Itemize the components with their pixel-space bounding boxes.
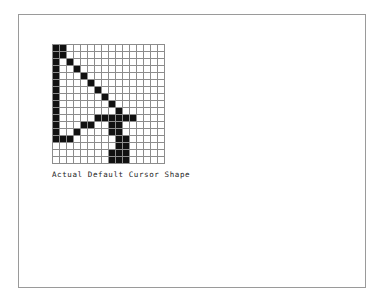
cursor-pixel-off (137, 59, 144, 66)
cursor-pixel-on (53, 52, 60, 59)
cursor-pixel-off (109, 108, 116, 115)
cursor-pixel-off (53, 150, 60, 157)
cursor-pixel-off (151, 143, 158, 150)
cursor-pixel-off (74, 143, 81, 150)
cursor-pixel-off (81, 45, 88, 52)
cursor-pixel-off (158, 73, 165, 80)
cursor-pixel-off (67, 143, 74, 150)
cursor-pixel-off (95, 94, 102, 101)
cursor-pixel-off (116, 94, 123, 101)
cursor-pixel-on (81, 73, 88, 80)
cursor-pixel-off (88, 101, 95, 108)
cursor-pixel-row (53, 136, 165, 143)
cursor-pixel-off (137, 52, 144, 59)
cursor-pixel-row (53, 143, 165, 150)
cursor-pixel-off (102, 73, 109, 80)
cursor-pixel-on (116, 143, 123, 150)
cursor-pixel-off (95, 80, 102, 87)
cursor-pixel-off (158, 129, 165, 136)
cursor-pixel-off (81, 94, 88, 101)
cursor-pixel-off (88, 73, 95, 80)
cursor-pixel-row (53, 66, 165, 73)
cursor-pixel-row (53, 122, 165, 129)
cursor-pixel-off (88, 52, 95, 59)
cursor-pixel-off (144, 122, 151, 129)
cursor-pixel-off (67, 115, 74, 122)
cursor-pixel-off (158, 52, 165, 59)
cursor-pixel-off (123, 122, 130, 129)
cursor-pixel-off (88, 94, 95, 101)
cursor-pixel-off (109, 87, 116, 94)
cursor-pixel-off (67, 101, 74, 108)
cursor-pixel-off (102, 80, 109, 87)
cursor-pixel-off (123, 108, 130, 115)
cursor-pixel-grid (52, 44, 165, 164)
cursor-pixel-off (53, 157, 60, 164)
cursor-pixel-off (151, 150, 158, 157)
cursor-pixel-off (88, 59, 95, 66)
cursor-pixel-off (144, 52, 151, 59)
cursor-pixel-on (109, 157, 116, 164)
cursor-pixel-off (88, 66, 95, 73)
cursor-pixel-off (109, 52, 116, 59)
cursor-pixel-off (95, 136, 102, 143)
cursor-pixel-off (116, 45, 123, 52)
cursor-pixel-row (53, 108, 165, 115)
cursor-pixel-off (102, 52, 109, 59)
cursor-pixel-off (158, 136, 165, 143)
cursor-pixel-off (144, 59, 151, 66)
cursor-pixel-off (67, 157, 74, 164)
cursor-pixel-on (116, 136, 123, 143)
cursor-pixel-on (116, 129, 123, 136)
cursor-pixel-off (60, 129, 67, 136)
cursor-pixel-off (151, 108, 158, 115)
cursor-pixel-off (130, 136, 137, 143)
cursor-pixel-off (137, 73, 144, 80)
cursor-pixel-on (88, 122, 95, 129)
cursor-pixel-off (95, 59, 102, 66)
cursor-pixel-off (74, 101, 81, 108)
cursor-pixel-off (130, 87, 137, 94)
cursor-pixel-off (95, 66, 102, 73)
cursor-pixel-off (109, 59, 116, 66)
cursor-pixel-off (130, 66, 137, 73)
cursor-pixel-row (53, 157, 165, 164)
cursor-pixel-off (88, 108, 95, 115)
cursor-pixel-on (53, 129, 60, 136)
cursor-pixel-off (95, 150, 102, 157)
cursor-pixel-on (109, 129, 116, 136)
cursor-pixel-off (158, 66, 165, 73)
cursor-pixel-off (109, 136, 116, 143)
cursor-pixel-off (137, 150, 144, 157)
cursor-pixel-off (95, 45, 102, 52)
cursor-pixel-on (53, 80, 60, 87)
cursor-pixel-on (53, 94, 60, 101)
cursor-pixel-off (137, 80, 144, 87)
cursor-pixel-row (53, 129, 165, 136)
cursor-pixel-off (81, 136, 88, 143)
cursor-pixel-off (95, 108, 102, 115)
cursor-pixel-off (116, 66, 123, 73)
cursor-pixel-row (53, 52, 165, 59)
cursor-pixel-off (102, 66, 109, 73)
cursor-pixel-off (60, 66, 67, 73)
cursor-pixel-on (116, 157, 123, 164)
cursor-pixel-off (67, 122, 74, 129)
cursor-pixel-off (88, 129, 95, 136)
cursor-pixel-off (102, 101, 109, 108)
cursor-pixel-off (158, 87, 165, 94)
cursor-pixel-on (53, 136, 60, 143)
cursor-pixel-off (123, 129, 130, 136)
cursor-pixel-off (144, 143, 151, 150)
cursor-pixel-off (130, 108, 137, 115)
cursor-pixel-off (130, 52, 137, 59)
cursor-pixel-off (67, 73, 74, 80)
cursor-pixel-off (137, 157, 144, 164)
cursor-pixel-off (67, 87, 74, 94)
cursor-pixel-off (88, 136, 95, 143)
cursor-pixel-off (95, 73, 102, 80)
cursor-pixel-off (109, 94, 116, 101)
cursor-pixel-off (67, 94, 74, 101)
cursor-pixel-off (102, 143, 109, 150)
cursor-pixel-on (60, 136, 67, 143)
